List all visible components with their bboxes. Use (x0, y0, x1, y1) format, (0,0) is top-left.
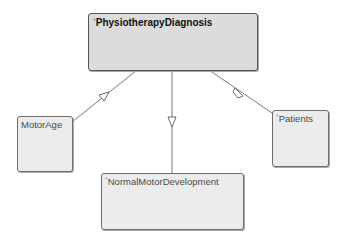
diagram-canvas: *PhysiotherapyDiagnosis MotorAge *Patien… (0, 0, 342, 242)
class-name: PhysiotherapyDiagnosis (96, 17, 213, 28)
generalization-arrowhead-icon (168, 117, 176, 127)
class-name: Patients (279, 113, 313, 124)
class-node-motor-age[interactable]: MotorAge (17, 116, 73, 172)
edge-patients-to-physiotherapydiagnosis[interactable] (209, 70, 272, 113)
class-name: NormalMotorDevelopment (108, 176, 219, 187)
class-node-normal-motor-development[interactable]: *NormalMotorDevelopment (101, 173, 244, 230)
class-node-patients[interactable]: *Patients (272, 110, 329, 167)
edge-motorage-to-physiotherapydiagnosis[interactable] (72, 70, 137, 122)
edge-normalmotordevelopment-to-physiotherapydiagnosis[interactable] (168, 70, 176, 173)
class-node-physiotherapy-diagnosis[interactable]: *PhysiotherapyDiagnosis (88, 13, 258, 71)
class-name: MotorAge (21, 119, 62, 130)
